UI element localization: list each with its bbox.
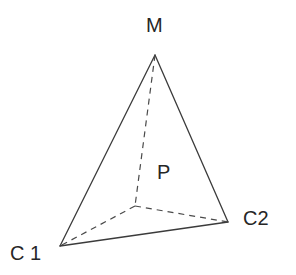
edge-m-c2 xyxy=(155,55,228,222)
edge-m-p xyxy=(135,55,155,206)
edge-p-c2 xyxy=(135,206,228,222)
tetrahedron-svg xyxy=(0,0,296,275)
edge-c1-c2 xyxy=(60,222,228,246)
tetrahedron-figure: M C 1 C2 P xyxy=(0,0,296,275)
vertex-label-m: M xyxy=(146,15,163,35)
vertex-label-p: P xyxy=(157,162,170,182)
dashed-edges xyxy=(60,55,228,246)
vertex-label-c1: C 1 xyxy=(10,243,41,263)
edge-m-c1 xyxy=(60,55,155,246)
vertex-label-c2: C2 xyxy=(243,208,269,228)
